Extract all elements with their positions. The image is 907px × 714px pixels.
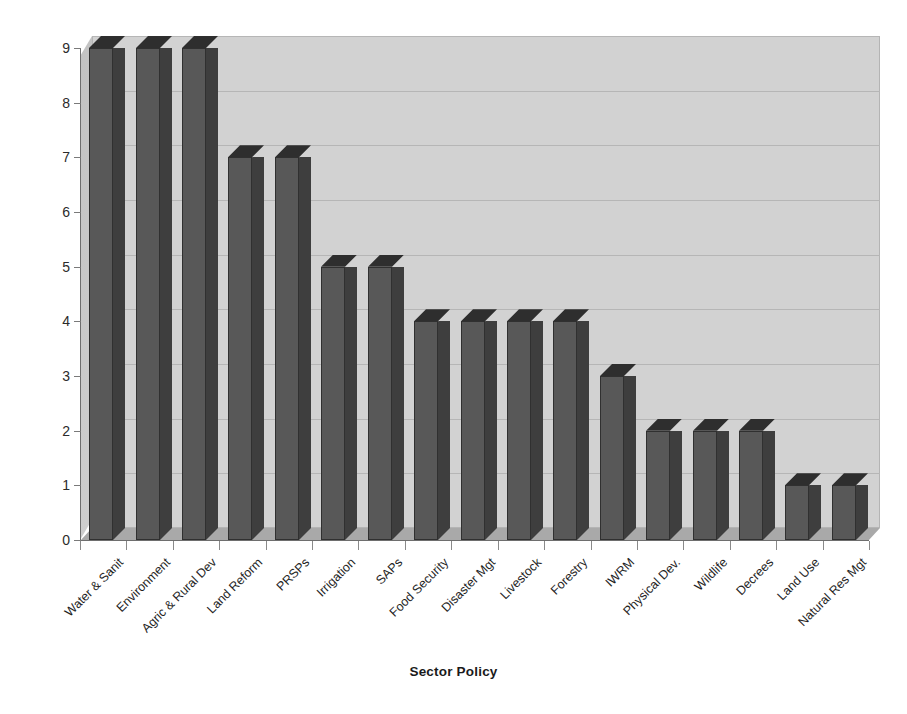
- x-tick-mark: [637, 541, 638, 550]
- bar-front-face: [832, 485, 856, 540]
- y-tick-label-wrap: 8: [40, 96, 70, 110]
- y-tick-label: 2: [42, 424, 70, 438]
- y-tick-label: 1: [42, 478, 70, 492]
- bar-front-face: [785, 485, 809, 540]
- bar: [228, 145, 252, 540]
- x-tick-label: PRSPs: [274, 556, 312, 594]
- bar-chart: No. of Countries 0123456789 Water & Sani…: [0, 0, 907, 714]
- y-tick-mark: [74, 48, 81, 49]
- bar-front-face: [368, 267, 392, 540]
- bar: [321, 255, 345, 540]
- x-tick-mark: [451, 541, 452, 550]
- bar: [693, 419, 717, 540]
- bar-side-face: [531, 321, 543, 540]
- bar-side-face: [577, 321, 589, 540]
- y-tick-mark: [74, 431, 81, 432]
- x-tick-label: Land Use: [776, 556, 823, 603]
- y-tick-label-wrap: 1: [40, 478, 70, 492]
- y-tick-label-wrap: 3: [40, 369, 70, 383]
- x-tick-label: Decrees: [734, 556, 776, 598]
- bar: [275, 145, 299, 540]
- y-tick-label-wrap: 5: [40, 260, 70, 274]
- x-tick-mark: [405, 541, 406, 550]
- x-tick-mark: [683, 541, 684, 550]
- bar-side-face: [763, 431, 775, 540]
- bar-front-face: [89, 48, 113, 540]
- x-tick-mark: [591, 541, 592, 550]
- y-tick-label: 4: [42, 314, 70, 328]
- bar-front-face: [136, 48, 160, 540]
- x-tick-label: Water & Sanit: [63, 556, 126, 619]
- bar: [785, 473, 809, 540]
- y-tick-label: 3: [42, 369, 70, 383]
- y-tick-mark: [74, 321, 81, 322]
- bar-front-face: [553, 321, 577, 540]
- y-tick-mark: [74, 212, 81, 213]
- bar-front-face: [600, 376, 624, 540]
- y-tick-mark: [74, 103, 81, 104]
- y-axis-line: [80, 48, 81, 541]
- bar: [414, 309, 438, 540]
- bar: [646, 419, 670, 540]
- bar: [368, 255, 392, 540]
- y-tick-label: 9: [42, 41, 70, 55]
- bar: [739, 419, 763, 540]
- x-tick-mark: [498, 541, 499, 550]
- plot-area: 0123456789 Water & SanitEnvironmentAgric…: [0, 0, 907, 714]
- x-tick-mark: [219, 541, 220, 550]
- x-tick-label: SAPs: [374, 556, 405, 587]
- x-tick-mark: [173, 541, 174, 550]
- y-tick-label-wrap: 7: [40, 150, 70, 164]
- x-tick-label: IWRM: [603, 556, 637, 590]
- bar-front-face: [321, 267, 345, 540]
- x-tick-mark: [266, 541, 267, 550]
- bar-side-face: [438, 321, 450, 540]
- bar-side-face: [345, 267, 357, 540]
- bar-front-face: [646, 431, 670, 540]
- bar-side-face: [160, 48, 172, 540]
- bar-side-face: [717, 431, 729, 540]
- x-tick-mark: [80, 541, 81, 550]
- y-tick-label-wrap: 9: [40, 41, 70, 55]
- bar: [832, 473, 856, 540]
- y-tick-label-wrap: 0: [40, 533, 70, 547]
- bar: [507, 309, 531, 540]
- bar-front-face: [693, 431, 717, 540]
- y-tick-label: 7: [42, 150, 70, 164]
- y-tick-mark: [74, 267, 81, 268]
- bar-front-face: [228, 157, 252, 540]
- y-tick-mark: [74, 485, 81, 486]
- y-tick-label-wrap: 6: [40, 205, 70, 219]
- bar: [136, 36, 160, 540]
- x-tick-label: Forestry: [549, 556, 591, 598]
- x-tick-label: Livestock: [498, 556, 544, 602]
- bar-front-face: [507, 321, 531, 540]
- y-tick-label: 0: [42, 533, 70, 547]
- bar: [89, 36, 113, 540]
- y-tick-label: 8: [42, 96, 70, 110]
- bar-side-face: [392, 267, 404, 540]
- y-tick-mark: [74, 376, 81, 377]
- bar-front-face: [182, 48, 206, 540]
- x-tick-mark: [823, 541, 824, 550]
- x-tick-label: Wildlife: [692, 556, 730, 594]
- x-tick-mark: [730, 541, 731, 550]
- x-tick-label: Irrigation: [315, 556, 359, 600]
- bar: [461, 309, 485, 540]
- y-tick-mark: [74, 157, 81, 158]
- bar-side-face: [299, 157, 311, 540]
- bar-front-face: [739, 431, 763, 540]
- bar-side-face: [252, 157, 264, 540]
- bar-side-face: [485, 321, 497, 540]
- bar-side-face: [113, 48, 125, 540]
- x-axis-title: Sector Policy: [0, 664, 907, 679]
- bar: [553, 309, 577, 540]
- bar-front-face: [461, 321, 485, 540]
- x-tick-mark: [312, 541, 313, 550]
- bar: [600, 364, 624, 540]
- bar-side-face: [670, 431, 682, 540]
- y-tick-label: 5: [42, 260, 70, 274]
- bar: [182, 36, 206, 540]
- x-tick-mark: [358, 541, 359, 550]
- bar-side-face: [206, 48, 218, 540]
